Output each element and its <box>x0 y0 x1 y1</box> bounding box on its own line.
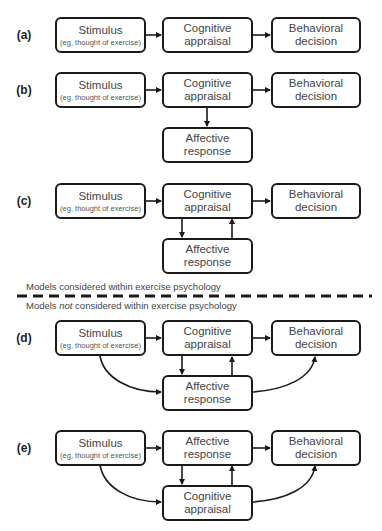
box-line-1: Behavioral <box>289 22 343 35</box>
affective-response-box-d: Affective response <box>162 375 253 411</box>
box-line-1: Cognitive <box>184 325 232 338</box>
stimulus-subtitle: (eg, thought of exercise) <box>60 93 141 102</box>
box-line-1: Affective <box>186 243 230 256</box>
box-line-2: appraisal <box>184 35 231 48</box>
cognitive-appraisal-box-c: Cognitive appraisal <box>162 183 253 219</box>
behavioral-decision-box-d: Behavioral decision <box>271 320 361 356</box>
curve-stimulus-to-bottom-d <box>100 356 161 392</box>
box-line-2: appraisal <box>184 201 231 214</box>
stimulus-box-e: Stimulus (eg, thought of exercise) <box>55 430 146 466</box>
box-line-1: Cognitive <box>184 188 232 201</box>
box-line-2: response <box>184 256 231 269</box>
cognitive-appraisal-box-b: Cognitive appraisal <box>162 72 253 108</box>
stimulus-title: Stimulus <box>78 79 122 92</box>
stimulus-title: Stimulus <box>78 190 122 203</box>
stimulus-box-a: Stimulus (eg, thought of exercise) <box>55 17 146 53</box>
stimulus-subtitle: (eg, thought of exercise) <box>60 38 141 47</box>
box-line-1: Cognitive <box>184 22 232 35</box>
stimulus-title: Stimulus <box>78 437 122 450</box>
affective-response-box-c: Affective response <box>162 238 253 274</box>
box-line-1: Behavioral <box>289 77 343 90</box>
cognitive-appraisal-box-a: Cognitive appraisal <box>162 17 253 53</box>
stimulus-box-d: Stimulus (eg, thought of exercise) <box>55 320 146 356</box>
panel-label-e: (e) <box>12 441 36 455</box>
box-line-1: Behavioral <box>289 435 343 448</box>
curve-stimulus-to-bottom-e <box>100 465 161 502</box>
stimulus-box-b: Stimulus (eg, thought of exercise) <box>55 72 146 108</box>
panel-label-a: (a) <box>12 28 36 42</box>
behavioral-decision-box-b: Behavioral decision <box>271 72 361 108</box>
cognitive-appraisal-box-e: Cognitive appraisal <box>162 485 253 521</box>
behavioral-decision-box-a: Behavioral decision <box>271 17 361 53</box>
box-line-1: Cognitive <box>184 77 232 90</box>
curve-bottom-to-right-d <box>252 357 315 392</box>
curve-bottom-to-right-e <box>252 466 315 502</box>
box-line-2: appraisal <box>184 503 231 516</box>
box-line-2: response <box>184 448 231 461</box>
box-line-1: Cognitive <box>184 490 232 503</box>
stimulus-subtitle: (eg, thought of exercise) <box>60 341 141 350</box>
section-label-not-considered: Models not considered within exercise ps… <box>26 300 237 311</box>
box-line-2: decision <box>295 35 337 48</box>
stimulus-title: Stimulus <box>78 24 122 37</box>
box-line-2: decision <box>295 338 337 351</box>
label-prefix: Models <box>26 300 59 311</box>
box-line-2: response <box>184 145 231 158</box>
panel-label-b: (b) <box>12 83 36 97</box>
stimulus-box-c: Stimulus (eg, thought of exercise) <box>55 183 146 219</box>
stimulus-title: Stimulus <box>78 327 122 340</box>
box-line-1: Affective <box>186 132 230 145</box>
affective-response-box-e: Affective response <box>162 430 253 466</box>
box-line-2: appraisal <box>184 338 231 351</box>
box-line-1: Behavioral <box>289 325 343 338</box>
label-emphasis: not <box>59 300 72 311</box>
affective-response-box-b: Affective response <box>162 127 253 163</box>
box-line-1: Behavioral <box>289 188 343 201</box>
box-line-1: Affective <box>186 380 230 393</box>
cognitive-appraisal-box-d: Cognitive appraisal <box>162 320 253 356</box>
box-line-2: appraisal <box>184 90 231 103</box>
box-line-1: Affective <box>186 435 230 448</box>
box-line-2: decision <box>295 448 337 461</box>
label-suffix: considered within exercise psychology <box>72 300 236 311</box>
panel-label-d: (d) <box>12 331 36 345</box>
panel-label-c: (c) <box>12 194 36 208</box>
box-line-2: decision <box>295 201 337 214</box>
behavioral-decision-box-e: Behavioral decision <box>271 430 361 466</box>
box-line-2: response <box>184 393 231 406</box>
stimulus-subtitle: (eg, thought of exercise) <box>60 451 141 460</box>
behavioral-decision-box-c: Behavioral decision <box>271 183 361 219</box>
section-label-considered: Models considered within exercise psycho… <box>26 281 221 292</box>
box-line-2: decision <box>295 90 337 103</box>
stimulus-subtitle: (eg, thought of exercise) <box>60 204 141 213</box>
